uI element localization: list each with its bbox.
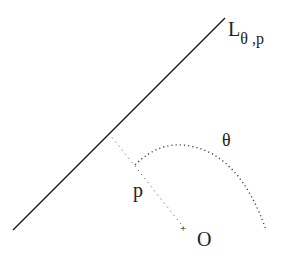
- distance-label: p: [133, 179, 143, 202]
- line-l: [13, 18, 225, 230]
- line-parametrization-diagram: + Lθ ,p θ p O: [0, 0, 288, 260]
- line-label: Lθ ,p: [228, 18, 264, 48]
- origin-marker: +: [180, 222, 186, 234]
- angle-arc: [135, 145, 266, 230]
- origin-label: O: [197, 228, 211, 250]
- angle-label: θ: [222, 130, 231, 150]
- perpendicular-distance: [111, 136, 184, 228]
